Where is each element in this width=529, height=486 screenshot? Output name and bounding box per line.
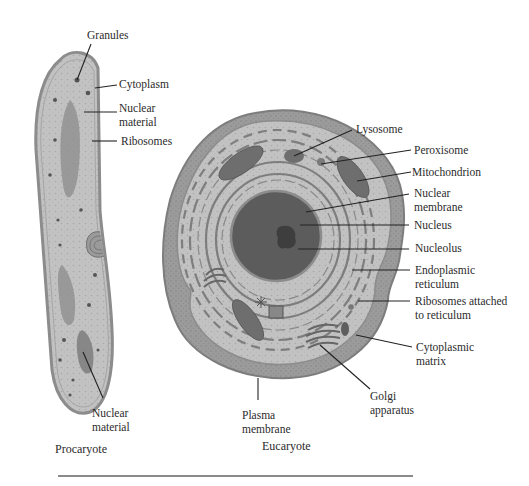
peroxisome	[317, 158, 325, 166]
label-peroxisome: Peroxisome	[414, 143, 468, 157]
label-nucleus: Nucleus	[414, 218, 452, 232]
label-nuclear-material-top: Nuclear material	[119, 101, 157, 129]
nucleolus	[277, 226, 296, 249]
label-cytoplasm: Cytoplasm	[119, 77, 169, 91]
label-granules: Granules	[87, 28, 129, 42]
label-plasma-membrane: Plasma membrane	[242, 408, 291, 436]
caption-procaryote: Procaryote	[55, 442, 107, 457]
label-mitochondrion: Mitochondrion	[412, 165, 481, 179]
label-ribosomes: Ribosomes	[121, 134, 172, 148]
label-nuclear-material-bottom: Nuclear material	[92, 406, 130, 434]
label-nuclear-membrane: Nuclear membrane	[414, 186, 463, 214]
bottom-divider	[58, 475, 413, 477]
nucleus	[231, 191, 321, 281]
label-nucleolus: Nucleolus	[415, 241, 462, 255]
label-cytoplasmic-matrix: Cytoplasmic matrix	[416, 340, 474, 368]
label-endoplasmic-reticulum: Endoplasmic reticulum	[415, 263, 475, 291]
procaryote-cell	[36, 52, 113, 413]
label-golgi-apparatus: Golgi apparatus	[370, 389, 414, 417]
label-lysosome: Lysosome	[356, 122, 403, 136]
label-ribosomes-attached: Ribosomes attached to reticulum	[415, 294, 507, 322]
cell-comparison-figure: Granules Cytoplasm Nuclear material Ribo…	[0, 0, 529, 486]
caption-eucaryote: Eucaryote	[262, 439, 311, 454]
